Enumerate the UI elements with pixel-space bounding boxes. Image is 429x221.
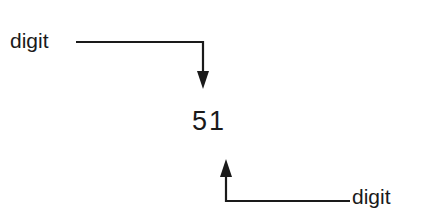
bottom-arrow-icon xyxy=(220,159,350,201)
top-arrow-icon xyxy=(76,42,209,89)
arrows xyxy=(0,0,429,221)
